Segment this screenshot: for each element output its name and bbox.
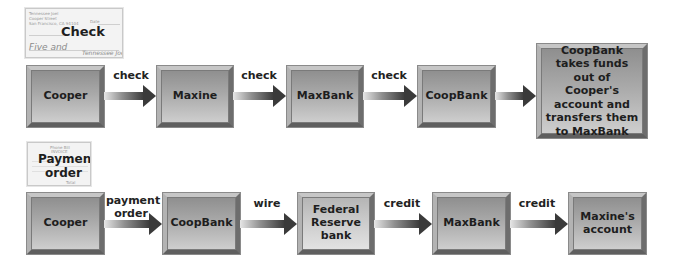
row2-node-maxbank: MaxBank <box>433 193 510 254</box>
row1-node-coopbank: CoopBank <box>418 66 495 127</box>
row2-edge-label-3: credit <box>381 198 423 211</box>
invoice-total: Total <box>66 180 75 185</box>
row1-edge-label-1: check <box>110 70 152 83</box>
arrow-head-icon <box>284 213 297 235</box>
row2-edge-label-2: wire <box>246 198 288 211</box>
row2-edge-label-4: credit <box>516 198 558 211</box>
row2-node-federal-reserve: Federal Reserve bank <box>298 193 374 254</box>
row1-arrow-1 <box>104 88 156 104</box>
row1-edge-label-3: check <box>368 70 410 83</box>
arrow-head-icon <box>419 213 432 235</box>
row2-arrow-1 <box>104 216 162 232</box>
check-title: Check <box>61 24 105 39</box>
arrow-head-icon <box>555 213 568 235</box>
row1-edge-label-2: check <box>238 70 280 83</box>
arrow-head-icon <box>273 85 286 107</box>
row2-node-maxine-account: Maxine's account <box>569 193 646 254</box>
row1-arrow-3 <box>363 88 417 104</box>
row2-arrow-2 <box>240 216 297 232</box>
arrow-head-icon <box>523 85 536 107</box>
row1-node-maxbank: MaxBank <box>287 66 363 127</box>
payment-order-title-line2: order <box>45 166 82 180</box>
row1-node-transfer-description: CoopBank takes funds out of Cooper's acc… <box>537 44 647 138</box>
check-signature: Tennessee Joel <box>82 49 123 56</box>
row2-arrow-4 <box>510 216 568 232</box>
row2-arrow-3 <box>374 216 432 232</box>
row1-node-maxine: Maxine <box>157 66 233 127</box>
row1-node-cooper: Cooper <box>27 66 104 127</box>
row2-node-cooper: Cooper <box>27 193 104 254</box>
payment-order-image: Phone Bill INVOICE Total Payment order <box>27 142 91 186</box>
arrow-head-icon <box>149 213 162 235</box>
check-image: Tennessee Joel Cooper Street San Francis… <box>25 8 123 58</box>
arrow-head-icon <box>404 85 417 107</box>
arrow-head-icon <box>143 85 156 107</box>
row2-node-coopbank: CoopBank <box>163 193 240 254</box>
row1-arrow-4 <box>495 88 536 104</box>
payment-order-title-line1: Payment <box>38 152 91 166</box>
row1-arrow-2 <box>233 88 286 104</box>
